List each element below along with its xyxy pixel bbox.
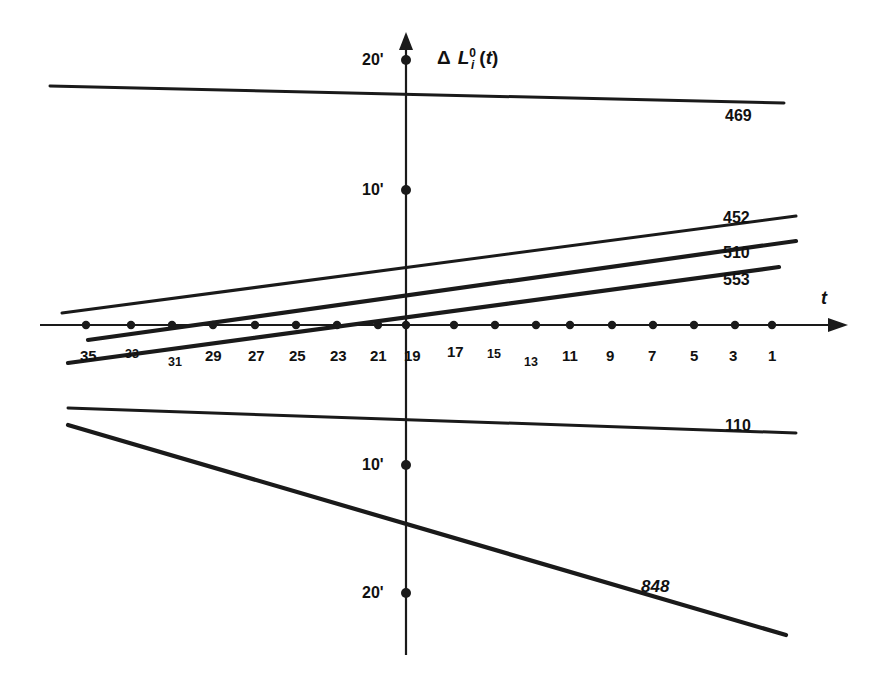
series-label-553: 553 bbox=[723, 272, 750, 288]
y-axis-arrowhead bbox=[399, 32, 413, 50]
x-tick-label: 9 bbox=[606, 348, 614, 363]
series-label-110: 110 bbox=[725, 418, 751, 434]
x-tick-dot bbox=[292, 321, 300, 329]
x-tick-dot bbox=[608, 321, 616, 329]
y-axis-label-delta: Δ bbox=[437, 47, 451, 68]
y-tick-label-20-bottom: 20' bbox=[362, 585, 384, 601]
x-tick-dot bbox=[768, 321, 776, 329]
x-tick-label: 29 bbox=[205, 348, 222, 363]
x-tick-dot bbox=[82, 321, 90, 329]
y-tick-dot-20-bottom bbox=[401, 588, 411, 598]
x-tick-label: 5 bbox=[690, 348, 698, 363]
x-tick-dot bbox=[649, 321, 657, 329]
y-tick-dot-20-top bbox=[401, 55, 411, 65]
x-tick-dot bbox=[532, 321, 540, 329]
y-tick-label-10-top: 10' bbox=[362, 182, 384, 198]
x-tick-label: 3 bbox=[729, 348, 737, 363]
x-tick-label: 19 bbox=[404, 348, 421, 363]
x-tick-dot bbox=[491, 321, 499, 329]
x-tick-dot bbox=[566, 321, 574, 329]
series-label-452: 452 bbox=[723, 210, 750, 226]
y-axis-label-argument: (t) bbox=[479, 47, 498, 68]
series-line-469 bbox=[50, 86, 784, 103]
x-tick-label: 21 bbox=[370, 348, 387, 363]
y-tick-label-20-top: 20' bbox=[362, 52, 384, 68]
series-line-452 bbox=[62, 216, 796, 313]
series-line-848 bbox=[68, 425, 786, 635]
series-line-553 bbox=[68, 267, 779, 363]
x-axis-arrowhead bbox=[828, 318, 848, 332]
x-tick-label: 1 bbox=[768, 348, 776, 363]
x-tick-dot bbox=[690, 321, 698, 329]
series-label-848: 848 bbox=[641, 578, 669, 595]
x-tick-label: 15 bbox=[487, 348, 501, 361]
x-tick-label: 23 bbox=[330, 348, 347, 363]
x-tick-dot bbox=[127, 321, 135, 329]
y-axis-label-base: L bbox=[458, 47, 470, 68]
y-tick-dot-10-bottom bbox=[401, 460, 411, 470]
chart-figure: 20' 10' 10' 20' ΔL0i(t) t 35333129272523… bbox=[0, 0, 877, 695]
data-series-lines bbox=[50, 86, 796, 635]
x-tick-label: 27 bbox=[248, 348, 265, 363]
x-axis-label: t bbox=[821, 289, 827, 307]
x-tick-label: 11 bbox=[562, 348, 578, 363]
x-tick-label: 17 bbox=[447, 344, 464, 359]
x-tick-dot bbox=[731, 321, 739, 329]
y-axis-label-subscript: i bbox=[471, 58, 474, 72]
y-axis bbox=[399, 32, 413, 655]
x-tick-label: 13 bbox=[524, 356, 538, 369]
x-tick-dot bbox=[450, 321, 458, 329]
x-tick-label: 7 bbox=[648, 348, 656, 363]
x-tick-dot-origin bbox=[402, 321, 410, 329]
y-tick-dot-10-top bbox=[401, 185, 411, 195]
y-tick-label-10-bottom: 10' bbox=[362, 457, 384, 473]
series-label-469: 469 bbox=[725, 108, 752, 124]
x-tick-label: 33 bbox=[125, 348, 139, 361]
x-tick-dot bbox=[251, 321, 259, 329]
x-tick-label: 25 bbox=[289, 348, 306, 363]
x-tick-label: 35 bbox=[80, 348, 97, 363]
x-tick-label: 31 bbox=[168, 356, 182, 369]
series-label-510: 510 bbox=[723, 245, 750, 261]
y-axis-label: ΔL0i(t) bbox=[437, 47, 498, 71]
series-line-110 bbox=[68, 408, 796, 433]
